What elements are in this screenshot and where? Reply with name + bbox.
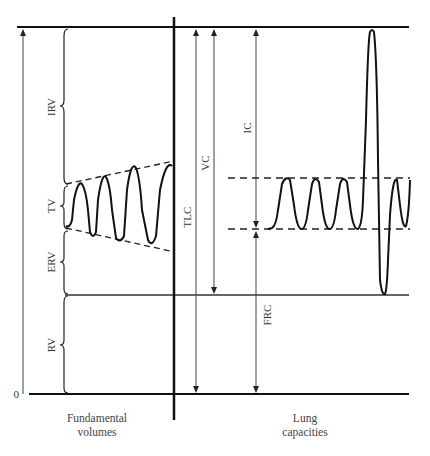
- lung-capacities-caption: Lung capacities: [282, 412, 328, 439]
- volume-axis-arrow: [20, 29, 26, 394]
- tv-brace: [60, 186, 68, 229]
- tlc-label: TLC: [181, 207, 193, 228]
- vc-label: VC: [199, 155, 211, 170]
- left-upper-envelope: [66, 161, 174, 184]
- rv-brace: [60, 296, 68, 393]
- svg-text:capacities: capacities: [282, 426, 328, 439]
- lung-volumes-diagram: 0 IRV TV ERV RV TLC VC IC FRC: [0, 0, 430, 456]
- svg-text:volumes: volumes: [78, 426, 117, 438]
- irv-label: IRV: [45, 98, 57, 116]
- tidal-breathing-trace-left: [66, 165, 172, 243]
- zero-label: 0: [14, 388, 20, 400]
- irv-brace: [60, 29, 68, 184]
- frc-label: FRC: [261, 305, 273, 326]
- tlc-arrow: [193, 29, 199, 393]
- ic-arrow: [253, 29, 259, 228]
- frc-arrow: [253, 231, 259, 393]
- erv-brace: [60, 231, 68, 294]
- tv-label: TV: [45, 199, 57, 214]
- vc-arrow: [211, 29, 217, 294]
- svg-text:Fundamental: Fundamental: [67, 412, 127, 424]
- vital-capacity-trace: [268, 30, 410, 294]
- fundamental-volumes-caption: Fundamental volumes: [67, 412, 127, 438]
- ic-label: IC: [241, 123, 253, 134]
- volume-braces: [60, 29, 68, 393]
- erv-label: ERV: [45, 251, 57, 272]
- svg-text:Lung: Lung: [293, 412, 318, 425]
- rv-label: RV: [45, 338, 57, 352]
